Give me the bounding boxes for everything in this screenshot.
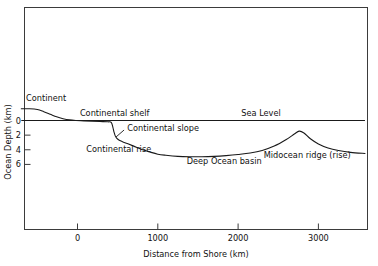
annotation-label: Continental rise xyxy=(86,144,151,154)
feature-annotations: ContinentContinental shelfSea LevelConti… xyxy=(26,93,351,165)
annotation-label: Continent xyxy=(26,93,67,103)
annotation-label: Continental slope xyxy=(127,123,199,133)
annotation-label: Midocean ridge (rise) xyxy=(264,150,351,160)
ocean-floor-profile-figure: 0246 0100020003000 ContinentContinental … xyxy=(0,0,378,266)
annotation-label: Sea Level xyxy=(241,108,280,118)
y-axis-ticks xyxy=(25,121,31,165)
annotation-label: Deep Ocean basin xyxy=(187,156,262,166)
y-tick-label: 4 xyxy=(16,145,21,155)
continental-slope-leader xyxy=(116,130,124,137)
y-axis-tick-labels: 0246 xyxy=(16,116,21,170)
y-axis-title: Ocean Depth (km) xyxy=(3,104,13,179)
x-tick-label: 2000 xyxy=(228,233,249,243)
x-axis-title: Distance from Shore (km) xyxy=(143,249,248,259)
x-tick-label: 0 xyxy=(75,233,80,243)
y-tick-label: 2 xyxy=(16,130,21,140)
y-tick-label: 0 xyxy=(16,116,21,126)
x-axis-tick-labels: 0100020003000 xyxy=(75,233,329,243)
annotation-leader-lines xyxy=(116,130,124,137)
x-tick-label: 3000 xyxy=(308,233,329,243)
plot-frame xyxy=(25,8,368,230)
annotation-label: Continental shelf xyxy=(80,108,151,118)
y-tick-label: 6 xyxy=(16,159,21,169)
x-tick-label: 1000 xyxy=(147,233,168,243)
chart-svg: 0246 0100020003000 ContinentContinental … xyxy=(0,0,378,266)
x-axis-ticks xyxy=(78,224,319,230)
